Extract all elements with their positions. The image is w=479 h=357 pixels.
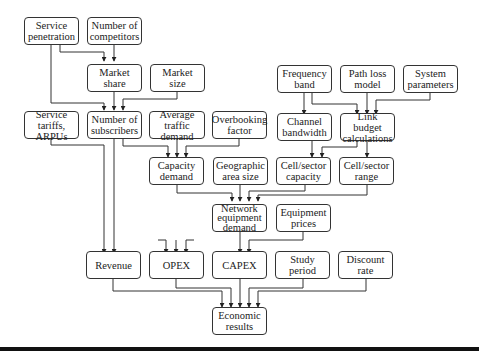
node-average-traffic-demand: Average traffic demand [149, 111, 205, 139]
node-capacity-demand: Capacity demand [149, 157, 204, 185]
node-number-of-competitors: Number of competitors [87, 17, 142, 45]
node-number-of-subscribers: Number of subscribers [87, 111, 142, 139]
node-opex: OPEX [149, 251, 204, 279]
node-market-share: Market share [87, 64, 142, 92]
node-geographic-area-size: Geographic area size [213, 157, 268, 185]
node-service-tariffs-arpus: Service tariffs, ARPUs [24, 111, 79, 139]
node-revenue: Revenue [86, 251, 141, 279]
node-channel-bandwidth: Channel bandwidth [277, 113, 332, 141]
node-network-equipment-demand: Network equipment demand [212, 204, 267, 232]
node-link-budget-calculations: Link budget calculations [340, 113, 395, 141]
node-cell-sector-capacity: Cell/sector capacity [276, 157, 331, 185]
node-economic-results: Economic results [212, 307, 267, 335]
node-overbooking-factor: Overbooking factor [212, 111, 267, 139]
node-cell-sector-range: Cell/sector range [339, 157, 394, 185]
node-frequency-band: Frequency band [277, 65, 332, 93]
node-system-parameters: System parameters [403, 65, 458, 93]
node-path-loss-model: Path loss model [340, 65, 395, 93]
node-capex: CAPEX [212, 251, 267, 279]
node-study-period: Study period [275, 251, 330, 279]
node-market-size: Market size [150, 64, 205, 92]
node-discount-rate: Discount rate [338, 251, 393, 279]
bottom-rule [0, 347, 479, 351]
node-service-penetration: Service penetration [24, 17, 79, 45]
node-equipment-prices: Equipment prices [276, 204, 331, 232]
